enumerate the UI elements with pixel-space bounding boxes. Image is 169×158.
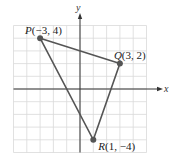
y-axis-label: y bbox=[75, 2, 81, 13]
coordinate-diagram: xy P(−3, 4)Q(3, 2)R(1, −4) bbox=[0, 0, 169, 158]
label-p: P(−3, 4) bbox=[24, 24, 62, 37]
label-r: R(1, −4) bbox=[97, 140, 135, 153]
y-axis-arrow-icon bbox=[78, 13, 82, 19]
x-axis-label: x bbox=[163, 83, 169, 94]
label-q: Q(3, 2) bbox=[114, 49, 146, 62]
point-r bbox=[90, 137, 96, 143]
x-axis-arrow-icon bbox=[157, 87, 163, 91]
point-q bbox=[117, 61, 123, 67]
